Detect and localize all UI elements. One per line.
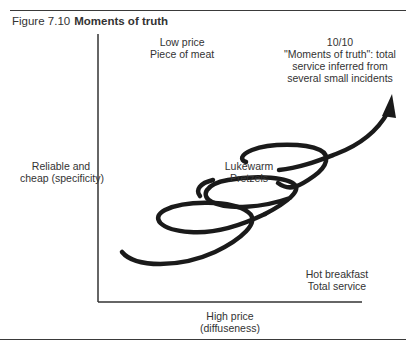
label-moments-of-truth: 10/10 "Moments of truth": total service … [280,36,400,84]
label-y-axis: Reliable and cheap (specificity) [20,160,102,184]
label-low-price: Low price Piece of meat [150,36,214,60]
label-hot-breakfast: Hot breakfast Total service [292,268,382,292]
arrowhead-icon [382,94,396,118]
spiral-arrow [122,112,388,264]
bottom-rule [0,339,406,340]
label-x-axis: High price (diffuseness) [180,310,280,334]
label-lukewarm-pretzels: Lukewarm Pretzels [214,160,284,184]
